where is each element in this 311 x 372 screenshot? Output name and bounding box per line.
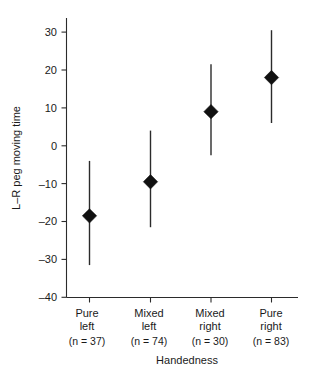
y-tick-label-neg40: –40: [39, 291, 57, 303]
y-axis-title: L–R peg moving time: [10, 106, 22, 210]
y-tick-label-20: 20: [45, 64, 57, 76]
x-category-count-1: (n = 74): [131, 335, 167, 347]
y-tick-label-neg20: –20: [39, 215, 57, 227]
x-category-label-1-line1: Mixed: [134, 307, 163, 319]
x-category-label-3-line2: right: [260, 320, 281, 332]
x-category-count-0: (n = 37): [69, 335, 105, 347]
x-category-count-3: (n = 83): [253, 335, 289, 347]
x-category-label-2-line2: right: [199, 320, 220, 332]
x-category-label-1-line2: left: [142, 320, 157, 332]
y-tick-label-neg10: –10: [39, 178, 57, 190]
chart-figure: 30 20 10 0 –10 –20 –30 –40 L–R peg movin…: [0, 0, 311, 372]
x-category-label-0-line2: left: [80, 320, 95, 332]
x-category-count-2: (n = 30): [192, 335, 228, 347]
y-tick-label-0: 0: [51, 140, 57, 152]
x-category-label-0-line1: Pure: [75, 307, 98, 319]
y-tick-label-10: 10: [45, 102, 57, 114]
x-category-label-3-line1: Pure: [259, 307, 282, 319]
x-category-label-2-line1: Mixed: [195, 307, 224, 319]
x-axis-title: Handedness: [156, 354, 218, 366]
y-tick-label-neg30: –30: [39, 253, 57, 265]
error-bar-chart: 30 20 10 0 –10 –20 –30 –40 L–R peg movin…: [0, 0, 311, 372]
y-tick-label-30: 30: [45, 26, 57, 38]
